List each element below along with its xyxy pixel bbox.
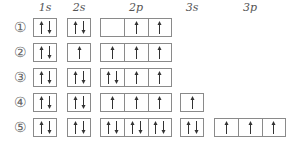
orbital-box-1s	[33, 18, 57, 37]
orbital-cell	[101, 19, 124, 36]
spin-up-arrow-icon	[110, 96, 115, 109]
orbital-cell	[68, 119, 90, 136]
spin-up-arrow-icon	[130, 121, 135, 134]
orbital-cell	[34, 19, 56, 36]
spin-up-arrow-icon	[134, 46, 139, 59]
option-number: ④	[13, 95, 28, 110]
orbital-cell	[34, 44, 56, 61]
spin-up-arrow-icon	[77, 46, 82, 59]
spin-up-arrow-icon	[157, 46, 162, 59]
orbital-box-1s	[33, 118, 57, 137]
orbital-cell	[68, 94, 90, 111]
option-row-2: ②	[0, 43, 301, 63]
spin-up-arrow-icon	[224, 121, 229, 134]
orbital-cell	[148, 119, 171, 136]
spin-down-arrow-icon	[47, 71, 52, 84]
subshell-header-3p: 3p	[243, 1, 257, 14]
spin-up-arrow-icon	[190, 96, 195, 109]
spin-up-arrow-icon	[157, 71, 162, 84]
spin-up-arrow-icon	[106, 121, 111, 134]
orbital-cell	[34, 119, 56, 136]
option-number: ①	[13, 20, 28, 35]
orbital-cell	[148, 69, 171, 86]
spin-up-arrow-icon	[248, 121, 253, 134]
orbital-box-2p	[100, 43, 172, 62]
orbital-cell	[101, 69, 124, 86]
orbital-cell	[262, 119, 285, 136]
orbital-box-1s	[33, 93, 57, 112]
orbital-cell	[124, 44, 147, 61]
spin-up-arrow-icon	[134, 21, 139, 34]
spin-down-arrow-icon	[114, 121, 119, 134]
spin-down-arrow-icon	[81, 121, 86, 134]
spin-down-arrow-icon	[81, 71, 86, 84]
spin-up-arrow-icon	[157, 96, 162, 109]
spin-down-arrow-icon	[161, 121, 166, 134]
option-row-4: ④	[0, 93, 301, 113]
spin-up-arrow-icon	[134, 71, 139, 84]
orbital-box-2s	[67, 118, 91, 137]
spin-up-arrow-icon	[39, 21, 44, 34]
spin-up-arrow-icon	[39, 121, 44, 134]
orbital-box-3s	[180, 118, 204, 137]
orbital-cell	[124, 119, 147, 136]
orbital-cell	[124, 19, 147, 36]
orbital-cell	[124, 69, 147, 86]
orbital-cell	[215, 119, 238, 136]
subshell-header-2s: 2s	[73, 1, 86, 14]
spin-up-arrow-icon	[73, 71, 78, 84]
orbital-cell	[148, 19, 171, 36]
spin-down-arrow-icon	[81, 21, 86, 34]
spin-up-arrow-icon	[134, 96, 139, 109]
orbital-cell	[101, 44, 124, 61]
spin-up-arrow-icon	[271, 121, 276, 134]
orbital-cell	[101, 94, 124, 111]
orbital-cell	[68, 44, 90, 61]
orbital-box-2s	[67, 43, 91, 62]
orbital-cell	[238, 119, 261, 136]
spin-down-arrow-icon	[114, 71, 119, 84]
spin-down-arrow-icon	[194, 121, 199, 134]
spin-down-arrow-icon	[47, 96, 52, 109]
subshell-header-1s: 1s	[39, 1, 52, 14]
orbital-box-2p	[100, 18, 172, 37]
option-number: ②	[13, 45, 28, 60]
orbital-cell	[101, 119, 124, 136]
spin-up-arrow-icon	[106, 71, 111, 84]
orbital-cell	[148, 44, 171, 61]
orbital-box-2p	[100, 118, 172, 137]
option-row-3: ③	[0, 68, 301, 88]
orbital-box-2p	[100, 93, 172, 112]
subshell-header-2p: 2p	[129, 1, 143, 14]
orbital-box-3p	[214, 118, 286, 137]
spin-down-arrow-icon	[47, 21, 52, 34]
spin-up-arrow-icon	[73, 21, 78, 34]
option-row-1: ①	[0, 18, 301, 38]
spin-up-arrow-icon	[73, 121, 78, 134]
spin-up-arrow-icon	[39, 71, 44, 84]
spin-up-arrow-icon	[157, 21, 162, 34]
subshell-header-3s: 3s	[186, 1, 199, 14]
orbital-box-3s	[180, 93, 204, 112]
spin-up-arrow-icon	[39, 46, 44, 59]
option-number: ③	[13, 70, 28, 85]
spin-up-arrow-icon	[110, 46, 115, 59]
orbital-cell	[68, 19, 90, 36]
spin-up-arrow-icon	[186, 121, 191, 134]
orbital-box-2p	[100, 68, 172, 87]
orbital-box-1s	[33, 68, 57, 87]
orbital-cell	[34, 69, 56, 86]
spin-down-arrow-icon	[81, 96, 86, 109]
orbital-cell	[181, 94, 203, 111]
orbital-box-2s	[67, 18, 91, 37]
spin-up-arrow-icon	[153, 121, 158, 134]
option-row-5: ⑤	[0, 118, 301, 138]
spin-down-arrow-icon	[47, 46, 52, 59]
orbital-box-2s	[67, 93, 91, 112]
orbital-cell	[68, 69, 90, 86]
orbital-box-1s	[33, 43, 57, 62]
spin-up-arrow-icon	[73, 96, 78, 109]
orbital-box-2s	[67, 68, 91, 87]
spin-down-arrow-icon	[138, 121, 143, 134]
spin-up-arrow-icon	[39, 96, 44, 109]
